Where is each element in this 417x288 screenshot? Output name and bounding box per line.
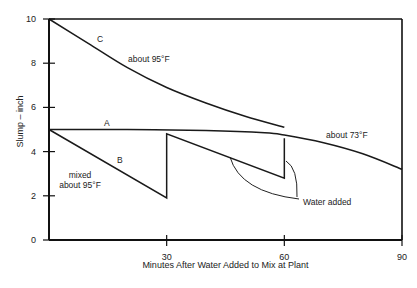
series-a-annotation: about 73°F: [326, 130, 368, 140]
y-tick-label: 0: [31, 235, 36, 245]
series-a-label: A: [104, 118, 110, 128]
labels: Minutes After Water Added to Mix at Plan…: [15, 34, 368, 270]
water-added-annotation: Water added: [303, 197, 352, 207]
series-c-line: [49, 19, 284, 127]
x-axis-title: Minutes After Water Added to Mix at Plan…: [142, 260, 309, 270]
y-tick-label: 2: [31, 191, 36, 201]
y-tick-label: 6: [31, 102, 36, 112]
series-b-label: B: [117, 155, 123, 165]
series-c-annotation: about 95°F: [128, 54, 170, 64]
plot-area: [49, 19, 402, 198]
y-tick-label: 8: [31, 58, 36, 68]
x-tick-label: 90: [397, 252, 407, 262]
y-axis-title: Slump – inch: [15, 95, 25, 147]
y-tick-label: 4: [31, 147, 36, 157]
series-b-annotation-line2: about 95°F: [59, 180, 101, 190]
y-tick-label: 10: [26, 14, 36, 24]
slump-chart: 0246810306090 Minutes After Water Added …: [0, 0, 417, 288]
series-b-annotation-line1: mixed: [69, 170, 92, 180]
series-c-label: C: [97, 34, 103, 44]
water-added-pointer-2: [286, 161, 297, 197]
